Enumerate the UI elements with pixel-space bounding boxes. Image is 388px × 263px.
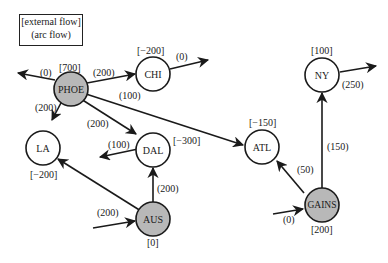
node-chi-label: CHI xyxy=(144,69,161,80)
arc-dal-out xyxy=(100,149,138,157)
arc-gains-atl-flow: (50) xyxy=(297,164,314,176)
node-atl-label: ATL xyxy=(253,142,271,153)
node-aus-label: AUS xyxy=(143,214,163,225)
node-phoe-label: PHOE xyxy=(58,84,84,95)
node-dal-external: [−300] xyxy=(173,135,200,146)
node-aus-external: [0] xyxy=(147,237,159,248)
arc-in-gains-flow: (0) xyxy=(283,214,295,226)
node-la-label: LA xyxy=(36,143,50,154)
node-atl-external: [−150] xyxy=(249,117,276,128)
node-ny-label: NY xyxy=(315,70,329,81)
arc-phoe-out-flow: (0) xyxy=(40,67,52,79)
arc-aus-la xyxy=(58,159,141,211)
node-gains-external: [200] xyxy=(311,224,333,235)
arc-in-aus xyxy=(93,221,135,228)
arc-chi-out-flow: (0) xyxy=(176,51,188,63)
arc-ny-out-flow: (250) xyxy=(342,79,364,91)
network-flow-diagram: PHOE CHI LA DAL ATL NY AUS GAINS [700] [… xyxy=(0,0,388,263)
arc-phoe-atl-flow: (100) xyxy=(119,90,141,102)
arc-ny-out xyxy=(340,66,376,72)
arc-phoe-la-flow: (200) xyxy=(35,102,57,114)
node-gains-label: GAINS xyxy=(307,200,336,210)
node-chi-external: [−200] xyxy=(137,45,164,56)
arc-phoe-chi-flow: (200) xyxy=(93,67,115,79)
arc-dal-out-flow: (100) xyxy=(108,139,130,151)
node-dal-label: DAL xyxy=(143,145,164,156)
node-la-external: [−200] xyxy=(30,169,57,180)
arc-phoe-dal-flow: (200) xyxy=(87,118,109,130)
node-phoe-external: [700] xyxy=(59,62,81,73)
arc-aus-dal-flow: (200) xyxy=(157,183,179,195)
arc-in-aus-flow: (200) xyxy=(97,207,119,219)
arc-gains-ny-flow: (150) xyxy=(327,141,349,153)
node-ny-external: [100] xyxy=(311,45,333,56)
